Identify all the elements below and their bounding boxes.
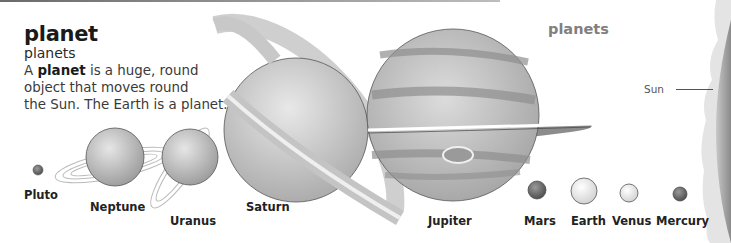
sun-label: Sun: [644, 83, 664, 95]
headword: planet: [24, 23, 324, 45]
definition-line3: the Sun. The Earth is a planet.: [24, 97, 228, 112]
uranus-illustration: [143, 122, 218, 214]
definition: A planet is a huge, round object that mo…: [24, 62, 324, 113]
definition-line2: object that moves round: [24, 80, 188, 95]
planet-label-venus: Venus: [612, 214, 651, 228]
planet-label-pluto: Pluto: [24, 188, 58, 202]
planet-label-mercury: Mercury: [656, 214, 709, 228]
plural-form: planets: [24, 45, 324, 62]
mars-illustration: [528, 181, 546, 199]
sun-illustration: [701, 0, 731, 243]
jupiter-illustration: [367, 29, 592, 201]
pluto-illustration: [33, 165, 43, 175]
venus-illustration: [620, 184, 638, 202]
planet-label-mars: Mars: [524, 214, 556, 228]
dictionary-entry: planet planets A planet is a huge, round…: [24, 23, 324, 113]
definition-prefix: A: [24, 63, 37, 78]
definition-term: planet: [37, 63, 85, 78]
planet-label-earth: Earth: [571, 214, 606, 228]
definition-line1-rest: is a huge, round: [86, 63, 199, 78]
planet-label-jupiter: Jupiter: [428, 214, 472, 228]
section-heading: planets: [548, 21, 609, 37]
planet-label-neptune: Neptune: [90, 200, 145, 214]
planet-label-uranus: Uranus: [170, 214, 216, 228]
neptune-illustration: [53, 128, 176, 190]
sun-leader-line: [676, 89, 713, 90]
earth-illustration: [571, 178, 597, 204]
planet-label-saturn: Saturn: [246, 200, 290, 214]
mercury-illustration: [673, 187, 687, 201]
